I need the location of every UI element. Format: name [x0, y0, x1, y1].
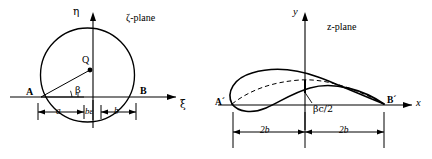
camber-beta-c-label: βc/2: [313, 104, 333, 114]
dimension-a-label: a: [56, 107, 61, 117]
joukowski-transformation-figure: [0, 0, 432, 159]
dimension-2b-left-label: 2b: [260, 126, 270, 136]
airfoil-upper-surface: [230, 70, 384, 104]
z-dimension-lines: [233, 112, 384, 148]
zeta-plane-title: ζ-plane: [126, 13, 155, 23]
airfoil-lower-surface: [232, 86, 384, 112]
beta-angle-arc: [71, 91, 73, 97]
x-axis-label: x: [416, 98, 421, 109]
point-b-prime-label: Bˊ: [387, 96, 397, 106]
dimension-be-label: bε: [85, 107, 93, 116]
dimension-2b-right-label: 2b: [339, 126, 349, 136]
xi-axis-label: ξ: [180, 99, 186, 110]
z-plane-title: z-plane: [327, 22, 356, 32]
a-to-q-line: [41, 70, 90, 97]
center-point-q: [88, 68, 93, 73]
beta-angle-label: β: [75, 85, 81, 95]
point-b-label: B: [140, 86, 147, 96]
dimension-b-label: b: [114, 107, 119, 117]
point-a-label: A: [26, 87, 33, 97]
z-plane-panel: [218, 12, 412, 148]
center-q-label: Q: [82, 55, 89, 65]
y-axis-label: y: [293, 7, 298, 18]
point-a-prime-label: Aˊ: [215, 98, 225, 108]
eta-axis-label: η: [73, 6, 79, 17]
